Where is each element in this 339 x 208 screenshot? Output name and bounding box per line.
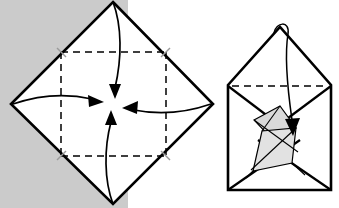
diagram-page	[0, 0, 339, 208]
right-panel-group	[228, 24, 331, 190]
origami-figure	[0, 0, 339, 208]
